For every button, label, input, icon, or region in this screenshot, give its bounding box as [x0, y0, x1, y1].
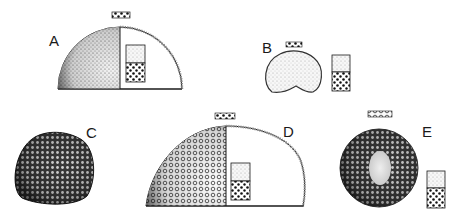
panel-c	[15, 132, 94, 204]
inset-swatch-e	[427, 171, 445, 208]
panel-a	[58, 12, 182, 89]
label-e: E	[422, 124, 432, 139]
surface-detail-d	[215, 113, 235, 119]
inset-swatch-d	[231, 163, 250, 200]
diagram-canvas	[0, 0, 458, 223]
label-b: B	[262, 40, 272, 55]
panel-d	[146, 113, 305, 206]
surface-detail-e	[368, 111, 392, 117]
label-d: D	[283, 124, 294, 139]
panel-b	[266, 42, 350, 92]
dome-b	[266, 51, 322, 92]
inset-swatch-a	[126, 45, 145, 82]
label-a: A	[49, 33, 59, 48]
core-e	[369, 151, 391, 185]
inset-swatch-b	[332, 55, 350, 91]
label-c: C	[86, 125, 97, 140]
surface-detail-a	[112, 12, 130, 18]
surface-detail-b	[286, 42, 302, 47]
